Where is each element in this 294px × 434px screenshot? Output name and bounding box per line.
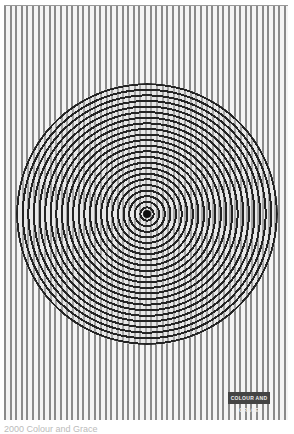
poster [4,5,288,420]
caption: 2000 Colour and Grace [4,424,98,434]
poster-label: COLOUR AND GRACE [228,392,270,404]
concentric-circle [16,83,278,345]
center-dot [143,210,151,218]
